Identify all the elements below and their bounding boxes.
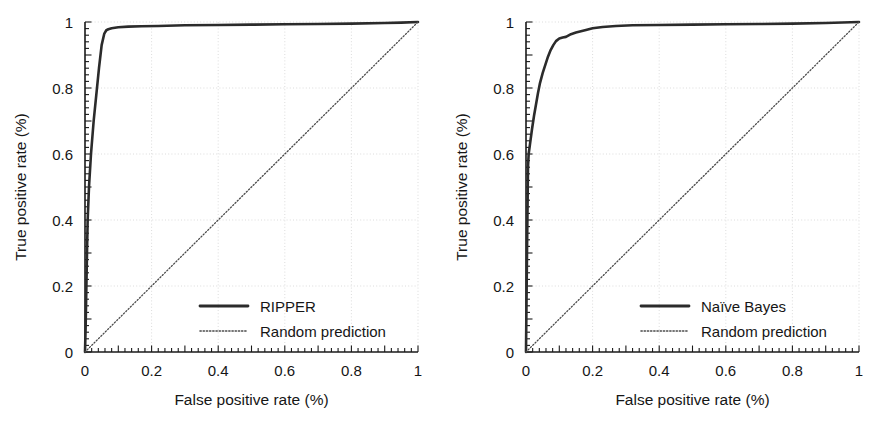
- x-tick-label: 1: [414, 362, 422, 379]
- x-tick-label: 0: [522, 362, 530, 379]
- y-tick-label: 0.4: [52, 212, 73, 229]
- y-tick-label: 1: [65, 14, 73, 31]
- x-tick-label: 0.2: [582, 362, 603, 379]
- y-tick-label: 0.4: [493, 212, 514, 229]
- figure-root: 00.20.40.60.8100.20.40.60.81False positi…: [0, 0, 882, 431]
- x-tick-label: 0.8: [782, 362, 803, 379]
- y-axis-title: True positive rate (%): [453, 113, 470, 261]
- chart-panel-ripper: 00.20.40.60.8100.20.40.60.81False positi…: [0, 0, 441, 431]
- x-tick-label: 0: [81, 362, 89, 379]
- x-tick-label: 0.4: [649, 362, 670, 379]
- roc-chart-left: 00.20.40.60.8100.20.40.60.81False positi…: [0, 0, 441, 431]
- roc-chart-right: 00.20.40.60.8100.20.40.60.81False positi…: [441, 0, 882, 431]
- x-axis-title: False positive rate (%): [615, 391, 769, 408]
- series-line-random: [85, 22, 418, 352]
- x-tick-label: 0.2: [141, 362, 162, 379]
- y-tick-label: 0.2: [52, 278, 73, 295]
- y-tick-label: 0.2: [493, 278, 514, 295]
- legend-label-2: Random prediction: [260, 323, 386, 340]
- y-axis-title: True positive rate (%): [12, 113, 29, 261]
- x-tick-label: 0.4: [208, 362, 229, 379]
- y-tick-label: 0.6: [493, 146, 514, 163]
- y-tick-label: 1: [506, 14, 514, 31]
- legend-label-1: Naïve Bayes: [701, 298, 786, 315]
- x-tick-label: 0.6: [715, 362, 736, 379]
- x-tick-label: 0.8: [341, 362, 362, 379]
- chart-panel-naive-bayes: 00.20.40.60.8100.20.40.60.81False positi…: [441, 0, 882, 431]
- legend-label-1: RIPPER: [260, 298, 316, 315]
- y-tick-label: 0: [506, 344, 514, 361]
- x-axis-title: False positive rate (%): [174, 391, 328, 408]
- y-tick-label: 0.8: [493, 80, 514, 97]
- legend-label-2: Random prediction: [701, 323, 827, 340]
- x-tick-label: 0.6: [274, 362, 295, 379]
- x-tick-label: 1: [855, 362, 863, 379]
- y-tick-label: 0.8: [52, 80, 73, 97]
- y-tick-label: 0.6: [52, 146, 73, 163]
- series-line-random: [526, 22, 859, 352]
- y-tick-label: 0: [65, 344, 73, 361]
